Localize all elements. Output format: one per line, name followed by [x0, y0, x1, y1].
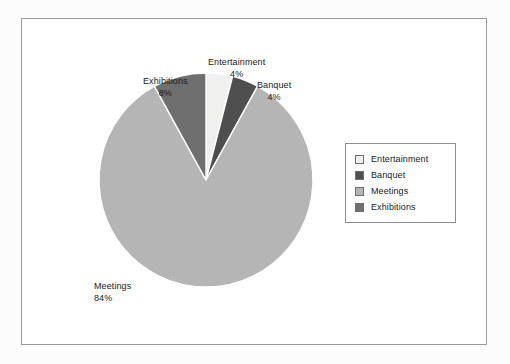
- callout-label-exhibitions: Exhibitions 8%: [143, 76, 188, 99]
- screenshot-root: Entertainment 4% Exhibitions 8% Banquet …: [0, 0, 510, 364]
- legend-item-exhibitions[interactable]: Exhibitions: [355, 199, 447, 215]
- legend-swatch-entertainment: [355, 155, 364, 164]
- callout-label-banquet: Banquet 4%: [257, 80, 291, 103]
- pie-chart-plot-area: Entertainment 4% Exhibitions 8% Banquet …: [22, 19, 486, 344]
- callout-name-entertainment: Entertainment: [208, 57, 265, 69]
- callout-name-banquet: Banquet: [257, 80, 291, 92]
- legend-swatch-meetings: [355, 187, 364, 196]
- legend-swatch-banquet: [355, 171, 364, 180]
- callout-value-meetings: 84%: [94, 293, 131, 305]
- legend-label-entertainment: Entertainment: [371, 154, 428, 164]
- legend-swatch-exhibitions: [355, 203, 364, 212]
- legend-item-entertainment[interactable]: Entertainment: [355, 151, 447, 167]
- legend-item-banquet[interactable]: Banquet: [355, 167, 447, 183]
- callout-value-entertainment: 4%: [208, 69, 265, 81]
- callout-label-meetings: Meetings 84%: [94, 281, 131, 304]
- legend-label-meetings: Meetings: [371, 186, 408, 196]
- legend-label-banquet: Banquet: [371, 170, 405, 180]
- legend-label-exhibitions: Exhibitions: [371, 202, 416, 212]
- callout-name-exhibitions: Exhibitions: [143, 76, 188, 88]
- callout-label-entertainment: Entertainment 4%: [208, 57, 265, 80]
- chart-legend: Entertainment Banquet Meetings Exhibitio…: [345, 143, 456, 223]
- callout-value-exhibitions: 8%: [143, 88, 188, 100]
- callout-value-banquet: 4%: [257, 92, 291, 104]
- pie-slice-group: [99, 73, 313, 287]
- legend-item-meetings[interactable]: Meetings: [355, 183, 447, 199]
- callout-name-meetings: Meetings: [94, 281, 131, 293]
- chart-frame: Entertainment 4% Exhibitions 8% Banquet …: [21, 18, 487, 345]
